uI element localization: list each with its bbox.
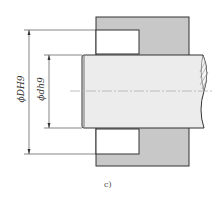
outer-diameter-label: ϕDH9 (16, 71, 26, 107)
inner-diameter-label: ϕdh9 (36, 73, 46, 105)
shaft (82, 55, 207, 128)
bushing-top (96, 30, 139, 54)
figure-caption: c) (104, 180, 112, 189)
bushing-bottom (96, 129, 139, 154)
